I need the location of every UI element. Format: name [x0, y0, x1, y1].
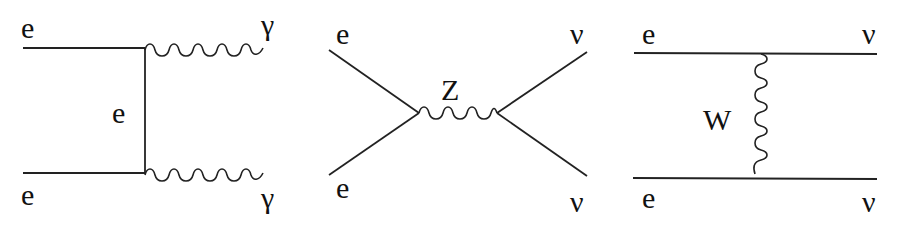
label-in-top: e: [642, 17, 655, 50]
w-boson-propagator: [754, 54, 767, 174]
electron-line-bottom: [329, 113, 419, 175]
label-out-bottom: ν: [570, 185, 584, 218]
label-in-bottom: e: [642, 181, 655, 214]
label-out-top: ν: [862, 17, 876, 50]
diagram-ee-to-nunu-w: e e W ν ν: [633, 17, 877, 218]
neutrino-line-bottom: [497, 113, 587, 176]
label-out-bottom: γ: [260, 181, 274, 214]
label-in-top: e: [336, 17, 349, 50]
feynman-diagrams: e e e γ γ e e Z ν ν e e W ν ν: [0, 0, 904, 233]
label-out-top: γ: [260, 8, 274, 41]
neutrino-line-top: [497, 52, 587, 113]
label-in-bottom: e: [21, 178, 34, 211]
label-in-top: e: [21, 11, 34, 44]
fermion-line-bottom: [633, 178, 877, 179]
fermion-line-top: [634, 53, 877, 54]
electron-line-top: [329, 50, 419, 113]
label-propagator: e: [112, 96, 125, 129]
diagram-ee-to-nunu-z: e e Z ν ν: [329, 17, 587, 218]
photon-line-top: [145, 44, 263, 56]
label-out-bottom: ν: [862, 185, 876, 218]
diagram-ee-to-gammagamma: e e e γ γ: [21, 8, 274, 214]
z-boson-propagator: [419, 107, 497, 119]
photon-line-bottom: [145, 169, 263, 181]
label-propagator: Z: [441, 73, 459, 106]
label-propagator: W: [703, 103, 732, 136]
label-out-top: ν: [570, 17, 584, 50]
label-in-bottom: e: [336, 171, 349, 204]
